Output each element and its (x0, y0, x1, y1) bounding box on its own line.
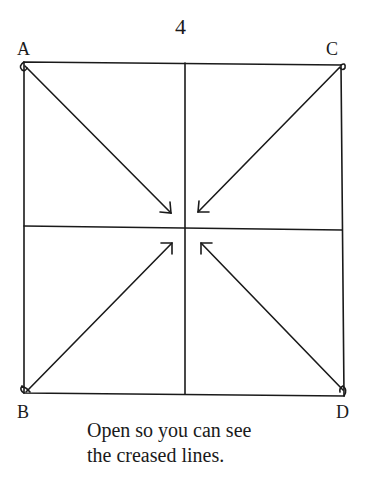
caption-line-2: the creased lines. (87, 443, 251, 468)
arrow-b-shaft (26, 243, 172, 392)
corner-label-c: C (326, 39, 338, 60)
caption-line-1: Open so you can see (87, 418, 251, 443)
corner-label-b: B (17, 402, 29, 423)
arrow-d-shaft (201, 243, 343, 390)
arrow-c-shaft (198, 67, 340, 212)
instruction-caption: Open so you can see the creased lines. (87, 418, 251, 468)
horizontal-crease (24, 226, 342, 230)
arrow-a-shaft (25, 66, 171, 213)
corner-label-a: A (17, 39, 30, 60)
corner-label-d: D (336, 402, 349, 423)
folded-square-diagram (0, 0, 368, 482)
